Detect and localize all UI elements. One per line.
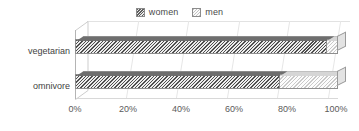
bar-series-container (75, 30, 338, 98)
chart-floor (75, 98, 338, 99)
bar-segment-vegetarian-men[interactable] (327, 39, 338, 54)
x-axis-tick-60: 60% (214, 104, 254, 115)
bar-top-face-vegetarian-women (76, 36, 336, 41)
y-axis-label-omnivore: omnivore (33, 81, 70, 92)
bar-segment-omnivore-men[interactable] (280, 74, 338, 89)
y-axis-label-vegetarian: vegetarian (28, 46, 70, 57)
x-axis-tick-80: 80% (267, 104, 307, 115)
bar-segment-vegetarian-women[interactable] (75, 39, 327, 54)
stacked-bar-chart: women men (0, 0, 359, 131)
x-axis-tick-100: 100% (316, 104, 356, 115)
x-axis-tick-20: 20% (108, 104, 148, 115)
bar-top-face-omnivore-women (76, 71, 289, 76)
bar-row-omnivore (75, 69, 338, 90)
bar-row-vegetarian (75, 34, 338, 55)
x-axis-tick-40: 40% (161, 104, 201, 115)
x-axis-tick-0: 0% (55, 104, 95, 115)
plot-area: vegetarian omnivore 0% 20% 40% 60% 80% 1… (0, 0, 359, 131)
bar-segment-omnivore-women[interactable] (75, 74, 280, 89)
